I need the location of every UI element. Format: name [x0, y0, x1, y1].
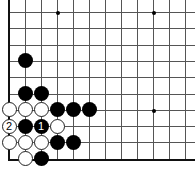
- grid-line-vertical: [137, 0, 138, 159]
- black-stone-move-1: 1: [34, 119, 49, 134]
- go-board-diagram: 21: [0, 0, 195, 175]
- white-stone: [2, 102, 17, 117]
- black-stone: [34, 86, 49, 101]
- grid-line-vertical: [89, 0, 90, 159]
- grid-line-horizontal: [9, 12, 195, 13]
- black-stone: [34, 151, 49, 166]
- grid-line-horizontal: [9, 61, 195, 62]
- white-stone: [34, 102, 49, 117]
- grid-line-horizontal: [9, 77, 195, 78]
- white-stone: [50, 119, 65, 134]
- white-stone-move-2: 2: [2, 119, 17, 134]
- grid-line-horizontal: [9, 28, 195, 29]
- star-point: [56, 11, 60, 15]
- grid-line-vertical: [105, 0, 106, 159]
- white-stone: [34, 135, 49, 150]
- white-stone: [18, 135, 33, 150]
- black-stone: [50, 135, 65, 150]
- grid-line-vertical: [185, 0, 186, 159]
- black-stone: [50, 102, 65, 117]
- white-stone: [18, 151, 33, 166]
- black-stone: [18, 53, 33, 68]
- black-stone: [18, 86, 33, 101]
- star-point: [152, 11, 156, 15]
- black-stone: [66, 135, 81, 150]
- white-stone: [18, 102, 33, 117]
- black-stone: [18, 119, 33, 134]
- black-stone: [82, 102, 97, 117]
- white-stone: [2, 135, 17, 150]
- grid-line-horizontal: [9, 45, 195, 46]
- grid-line-vertical: [169, 0, 170, 159]
- star-point: [152, 109, 156, 113]
- black-stone: [66, 102, 81, 117]
- grid-line-vertical: [121, 0, 122, 159]
- grid-line-vertical: [153, 0, 154, 159]
